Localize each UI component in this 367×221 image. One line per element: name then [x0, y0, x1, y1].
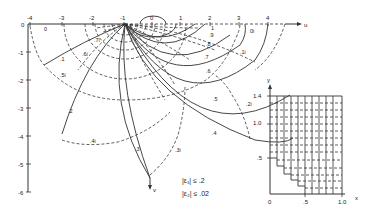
u-tick: 2 — [208, 15, 212, 21]
v-tick: -2 — [18, 78, 24, 84]
x-tick: .5 — [303, 199, 309, 205]
u-tick: -3 — [59, 15, 65, 21]
solid-radial-curves: v — [44, 24, 293, 193]
y-tick: .5 — [257, 155, 263, 161]
curve-label: .6i — [82, 51, 88, 57]
v-tick: -4 — [18, 134, 24, 140]
curve-label: .8 — [206, 41, 211, 47]
x-tick: 1.0 — [338, 199, 347, 205]
v-tick: 0 — [21, 22, 25, 28]
dashed-level-curves — [30, 24, 285, 175]
v-axis-label: v — [153, 187, 156, 193]
u-tick: -1 — [120, 15, 126, 21]
u-tick: -2 — [89, 15, 95, 21]
u-axis-label: u — [304, 22, 307, 28]
v-tick: -6 — [18, 190, 24, 196]
solid-level-curves — [125, 16, 290, 114]
u-tick: 4 — [266, 15, 270, 21]
curve-label: .4 — [212, 130, 217, 136]
u-tick: -4 — [27, 15, 33, 21]
error-bounds: |ε₁| ≤ .2 |ε₂| ≤ .02 — [182, 177, 209, 198]
curve-label: .5 — [213, 96, 218, 102]
y-axis-arrow-icon — [268, 84, 272, 89]
u-tick-labels: -4 -3 -2 -1 0 1 2 3 4 u — [27, 15, 307, 28]
curve-label: .3 — [135, 146, 140, 152]
curve-label: .9 — [209, 32, 214, 38]
curve-label: 0i — [250, 28, 254, 34]
curve-label: .2i — [246, 101, 252, 107]
main-axes — [26, 22, 302, 192]
curve-label: 1 — [211, 25, 214, 31]
curve-label: 0 — [44, 26, 47, 32]
u-tick: 3 — [237, 15, 241, 21]
curve-label: .1 — [60, 56, 65, 62]
curve-label: .3i — [175, 147, 181, 153]
x-axis-label: x — [355, 195, 358, 201]
curve-label: .7i — [94, 37, 100, 43]
u-axis-arrow-icon — [297, 22, 302, 26]
inset-plot: y x 0 .5 1.0 .5 1.0 1.4 — [253, 77, 358, 205]
curve-label: .2 — [68, 108, 73, 114]
curve-label: .1i — [240, 49, 246, 55]
curve-label: .7 — [204, 54, 209, 60]
y-axis-label: y — [267, 77, 270, 83]
y-tick: 1.0 — [253, 120, 262, 126]
u-tick: 1 — [179, 15, 183, 21]
error-bound-2: |ε₂| ≤ .02 — [182, 190, 209, 198]
v-tick: -5 — [18, 162, 24, 168]
v-tick-labels: 0 -1 -2 -3 -4 -5 -6 — [18, 22, 25, 196]
y-tick: 1.4 — [253, 93, 262, 99]
v-tick: -3 — [18, 106, 24, 112]
v-axis-arrow-icon — [148, 185, 152, 190]
curve-label: .5i — [60, 72, 66, 78]
conformal-map-diagram: -4 -3 -2 -1 0 1 2 3 4 u 0 -1 -2 -3 -4 -5… — [0, 0, 367, 221]
curve-label: .4i — [90, 138, 96, 144]
error-bound-1: |ε₁| ≤ .2 — [182, 177, 205, 185]
curve-label: .6 — [206, 68, 211, 74]
x-tick: 0 — [268, 199, 272, 205]
v-tick: -1 — [18, 50, 24, 56]
